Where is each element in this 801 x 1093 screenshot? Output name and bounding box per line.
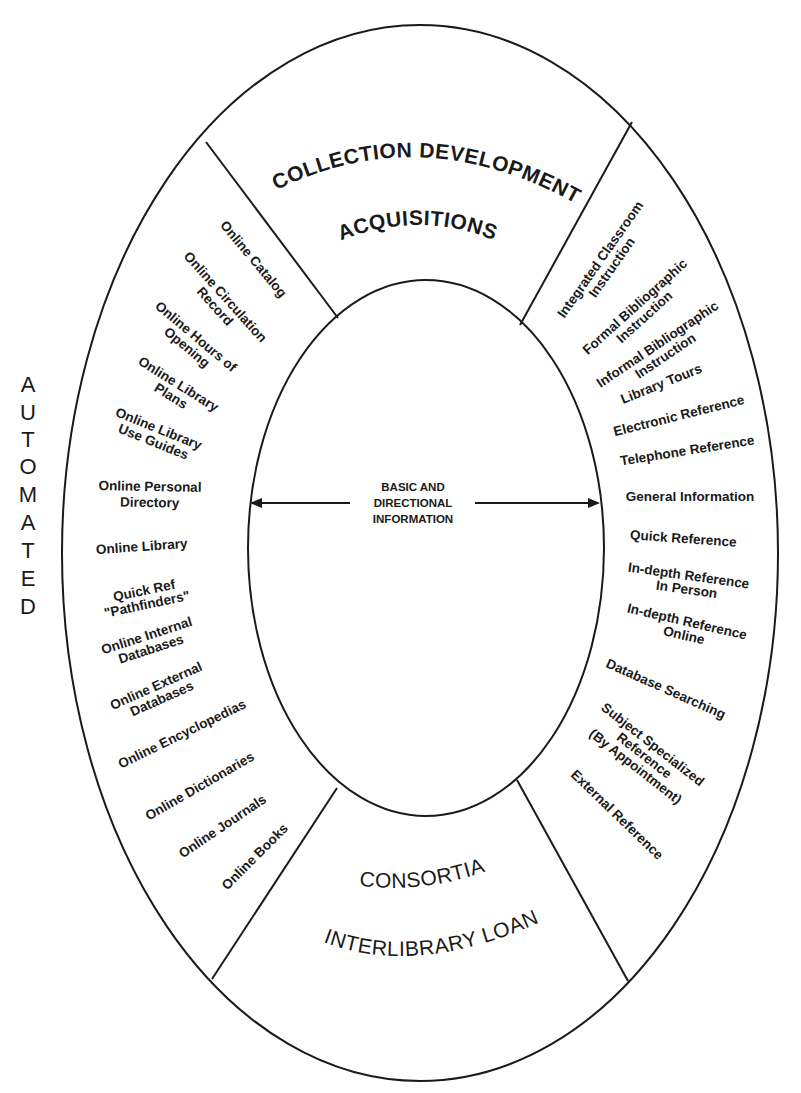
top-segment-subtitle: ACQUISITIONS bbox=[334, 206, 501, 244]
svg-text:E: E bbox=[21, 566, 36, 591]
center-line-3: INFORMATION bbox=[373, 513, 453, 525]
center-line-2: DIRECTIONAL bbox=[374, 497, 453, 509]
list-item: Online Books bbox=[219, 821, 291, 893]
list-item: Online Personal Directory bbox=[98, 478, 201, 511]
bottom-segment-subtitle: INTERLIBRARY LOAN bbox=[322, 905, 542, 960]
list-item: Quick Ref "Pathfinders" bbox=[100, 574, 191, 620]
list-item: In-depth Reference Online bbox=[623, 601, 749, 657]
right-segment: Integrated Classroom Instruction Formal … bbox=[554, 198, 756, 863]
outer-ellipse bbox=[62, 25, 778, 1081]
svg-text:T: T bbox=[21, 427, 34, 452]
side-label-automated: A U T O M A T E D bbox=[19, 372, 37, 619]
list-item: Quick Reference bbox=[630, 527, 738, 549]
service-diagram: BASIC AND DIRECTIONAL INFORMATION COLLEC… bbox=[0, 0, 801, 1093]
list-item: Telephone Reference bbox=[619, 432, 756, 468]
svg-text:General Information: General Information bbox=[626, 489, 754, 504]
svg-text:A: A bbox=[21, 372, 36, 397]
svg-text:Quick Reference: Quick Reference bbox=[630, 527, 738, 549]
center-line-1: BASIC AND bbox=[381, 481, 444, 493]
svg-text:M: M bbox=[19, 482, 37, 507]
top-segment-title: COLLECTION DEVELOPMENT bbox=[268, 138, 585, 207]
list-item: Online External Databases bbox=[108, 659, 210, 726]
svg-text:Directory: Directory bbox=[120, 494, 180, 510]
list-item: In-depth Reference In Person bbox=[625, 560, 751, 606]
list-item: Online Library Use Guides bbox=[108, 405, 204, 466]
svg-text:A: A bbox=[21, 510, 36, 535]
left-segment: Online Catalog Online Circulation Record… bbox=[96, 218, 291, 893]
bottom-segment-title: CONSORTIA bbox=[359, 853, 488, 892]
list-item: Online Internal Databases bbox=[99, 614, 198, 671]
svg-text:Telephone Reference: Telephone Reference bbox=[619, 432, 756, 468]
svg-text:O: O bbox=[19, 454, 36, 479]
inner-ellipse bbox=[248, 280, 604, 816]
svg-text:T: T bbox=[21, 538, 34, 563]
list-item: General Information bbox=[626, 489, 754, 504]
svg-text:D: D bbox=[20, 594, 36, 619]
list-item: Online Library bbox=[96, 536, 189, 557]
svg-text:U: U bbox=[20, 400, 36, 425]
svg-text:Online Library: Online Library bbox=[96, 536, 189, 557]
svg-text:Online Books: Online Books bbox=[219, 821, 291, 893]
svg-text:Online Personal: Online Personal bbox=[99, 478, 202, 495]
center-label: BASIC AND DIRECTIONAL INFORMATION bbox=[373, 481, 453, 525]
